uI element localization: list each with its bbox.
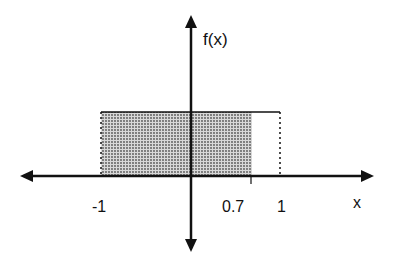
x-axis-left-arrow-icon [20,170,33,182]
uniform-density-diagram [0,0,393,258]
tick-label-minus-1: -1 [92,198,106,216]
tick-label-0.7: 0.7 [222,198,244,216]
y-axis-up-arrow-icon [185,15,197,28]
tick-label-1: 1 [277,198,286,216]
shaded-region [101,112,252,176]
x-axis-label: x [353,194,361,212]
y-axis-down-arrow-icon [185,239,197,252]
y-axis-label: f(x) [203,30,228,50]
x-axis-right-arrow-icon [361,170,374,182]
